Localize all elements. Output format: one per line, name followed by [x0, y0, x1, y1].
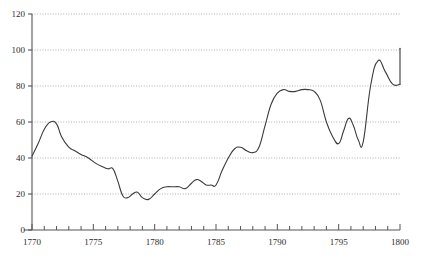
- y-tick-label-20: 20: [16, 189, 26, 199]
- x-tick-label-1785: 1785: [207, 237, 226, 247]
- y-tick-label-100: 100: [12, 45, 26, 55]
- x-tick-label-1795: 1795: [330, 237, 349, 247]
- y-tick-label-120: 120: [12, 9, 26, 19]
- y-tick-label-40: 40: [16, 153, 26, 163]
- y-tick-label-80: 80: [16, 81, 26, 91]
- x-tick-label-1790: 1790: [268, 237, 287, 247]
- x-tick-label-1775: 1775: [84, 237, 103, 247]
- line-chart: 020406080100120 177017751780178517901795…: [0, 0, 433, 276]
- y-tick-label-60: 60: [16, 117, 26, 127]
- x-tick-label-1800: 1800: [391, 237, 410, 247]
- chart-background: [0, 0, 433, 276]
- x-tick-label-1780: 1780: [146, 237, 165, 247]
- x-tick-label-1770: 1770: [23, 237, 42, 247]
- y-tick-label-0: 0: [21, 225, 26, 235]
- chart-container: 020406080100120 177017751780178517901795…: [0, 0, 433, 276]
